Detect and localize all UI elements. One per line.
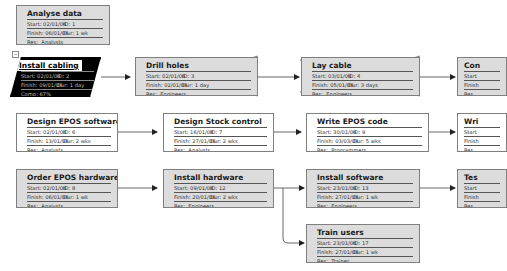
task-finish-row: Finish: 27/01/06Dur: 1 wk [317,192,413,201]
task-finish-row: Finish: 09/01/06Dur: 1 day [21,80,94,89]
task-start-row: Start: 02/01/06ID: 3 [146,71,251,80]
task-name: Wri [458,114,506,127]
task-res-row: Res: Trainer [317,256,413,263]
task-finish-row: Finish: 03/03/06Dur: 5 wks [317,136,422,145]
task-node-wri-partial[interactable]: Wri Start Finish Res [457,113,507,152]
task-start-row: Start: 02/01/06ID: 1 [27,19,103,28]
task-start-row: Start: 23/01/06ID: 17 [317,238,413,247]
task-start-row: Start: 02/01/06ID: 8 [27,183,111,192]
task-node-analyse-data[interactable]: Analyse data Start: 02/01/06ID: 1 Finish… [16,5,110,45]
task-finish-row: Finish [464,192,500,201]
task-node-tes-partial[interactable]: Tes Start Finish Res [457,169,507,208]
task-res-row: Res: Programmers [317,145,422,152]
task-res-row: Res: Engineers [317,201,413,208]
task-node-lay-cable[interactable]: Lay cable Start: 03/01/06ID: 4 Finish: 0… [301,57,420,96]
task-comp-row: Comp: 67% [21,89,94,97]
task-res-row: Res: Analysts [27,145,111,152]
task-res-row: Res [464,201,500,208]
task-finish-row: Finish: 20/01/06Dur: 2 wks [174,192,267,201]
task-node-install-hardware[interactable]: Install hardware Start: 09/01/06ID: 12 F… [163,169,274,208]
task-name: Lay cable [302,58,419,71]
task-finish-row: Finish: 27/01/06Dur: 2 wks [174,136,267,145]
task-node-train-users[interactable]: Train users Start: 23/01/06ID: 17 Finish… [306,224,420,263]
task-res-row: Res: Analysts [27,201,111,208]
task-name: Design EPOS software [17,114,117,127]
task-finish-row: Finish [464,80,500,89]
task-start-row: Start: 02/01/06ID: 2 [21,71,94,80]
task-start-row: Start: 30/01/06ID: 9 [317,127,422,136]
task-name: Design Stock control [164,114,273,127]
task-name: Install cabling [17,60,82,71]
task-res-row: Res: Analysts [27,37,103,45]
task-finish-row: Finish: 27/01/06Dur: 1 wk [317,247,413,256]
collapse-toggle[interactable]: − [12,51,19,58]
task-start-row: Start [464,71,500,80]
task-node-con-partial[interactable]: Con Start Finish Res [457,57,507,96]
task-finish-row: Finish [464,136,500,145]
task-finish-row: Finish: 13/01/06Dur: 2 wks [27,136,111,145]
task-start-row: Start: 16/01/06ID: 7 [174,127,267,136]
task-name: Analyse data [17,6,109,19]
task-start-row: Start: 03/01/06ID: 4 [312,71,413,80]
task-res-row: Res: Engineers [312,89,413,96]
task-node-install-software[interactable]: Install software Start: 23/01/06ID: 13 F… [306,169,420,208]
task-name: Drill holes [136,58,257,71]
task-name: Write EPOS code [307,114,428,127]
task-finish-row: Finish: 05/01/06Dur: 3 days [312,80,413,89]
task-node-install-cabling[interactable]: Install cabling Start: 02/01/06ID: 2 Fin… [10,57,101,97]
task-finish-row: Finish: 06/01/06Dur: 1 wk [27,28,103,37]
task-res-row: Res [464,145,500,152]
task-res-row: Res: Engineers [146,89,251,96]
task-node-design-epos-software[interactable]: Design EPOS software Start: 02/01/06ID: … [16,113,118,152]
task-res-row: Res: Analysts [174,145,267,152]
task-finish-row: Finish: 06/01/06Dur: 1 wk [27,192,111,201]
task-res-row: Res: Engineers [174,201,267,208]
task-node-drill-holes[interactable]: Drill holes Start: 02/01/06ID: 3 Finish:… [135,57,258,96]
task-start-row: Start: 09/01/06ID: 12 [174,183,267,192]
task-node-order-epos-hardware[interactable]: Order EPOS hardware Start: 02/01/06ID: 8… [16,169,118,208]
task-name: Order EPOS hardware [17,170,117,183]
task-res-row: Res [464,89,500,96]
task-node-design-stock-control[interactable]: Design Stock control Start: 16/01/06ID: … [163,113,274,152]
task-name: Install software [307,170,419,183]
task-name: Install hardware [164,170,273,183]
task-name: Train users [307,225,419,238]
task-start-row: Start: 23/01/06ID: 13 [317,183,413,192]
task-start-row: Start [464,183,500,192]
task-node-write-epos-code[interactable]: Write EPOS code Start: 30/01/06ID: 9 Fin… [306,113,429,152]
task-finish-row: Finish: 02/01/06Dur: 1 day [146,80,251,89]
task-start-row: Start [464,127,500,136]
task-name: Tes [458,170,506,183]
task-start-row: Start: 02/01/06ID: 6 [27,127,111,136]
task-name: Con [458,58,506,71]
